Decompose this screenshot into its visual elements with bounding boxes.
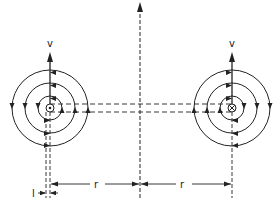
- left-vortex: v: [10, 38, 91, 198]
- right-vortex: v: [192, 38, 273, 198]
- axis-arrow-icon: [137, 2, 143, 12]
- velocity-label-right: v: [229, 38, 235, 49]
- dimension-r-left: r: [51, 179, 139, 190]
- into-page-icon: [228, 104, 236, 112]
- r-label-left: r: [94, 179, 99, 190]
- dimension-l: l: [32, 188, 58, 199]
- core-connector-lines: [50, 104, 232, 112]
- velocity-arrow-icon: [229, 52, 235, 62]
- l-label: l: [32, 188, 35, 199]
- dimension-r-right: r: [141, 179, 231, 190]
- velocity-arrow-icon: [47, 52, 53, 62]
- vortex-pair-diagram: v: [0, 0, 279, 207]
- symmetry-axis: [137, 2, 143, 200]
- r-label-right: r: [180, 179, 185, 190]
- velocity-label-left: v: [47, 38, 53, 49]
